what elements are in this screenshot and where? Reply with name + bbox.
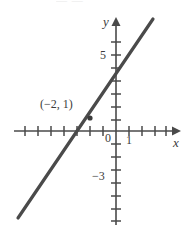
plotted-point-marker <box>87 115 92 120</box>
y-axis-label: y <box>103 14 109 30</box>
coordinate-plane-figure: y x 0 1 5 −3 (−2, 1) <box>0 0 192 229</box>
x-tick-label-1: 1 <box>126 133 132 148</box>
graph-canvas <box>0 0 192 229</box>
y-tick-label-neg3: −3 <box>92 169 105 184</box>
x-axis-label: x <box>173 135 179 151</box>
y-tick-label-5: 5 <box>100 48 106 63</box>
y-axis <box>111 17 121 225</box>
x-axis <box>14 126 181 136</box>
point-annotation-label: (−2, 1) <box>40 97 73 112</box>
origin-label: 0 <box>105 131 111 146</box>
plotted-line <box>18 19 153 218</box>
y-axis-arrow-icon <box>112 17 121 26</box>
